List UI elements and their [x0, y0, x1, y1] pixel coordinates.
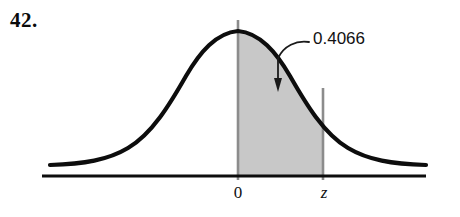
area-annotation-label: 0.4066	[313, 29, 365, 49]
annotation-leader-line	[278, 42, 309, 58]
axis-tick-label-zero: 0	[228, 183, 248, 203]
axis-tick-label-z: z	[314, 183, 334, 203]
problem-number: 42.	[10, 8, 38, 33]
